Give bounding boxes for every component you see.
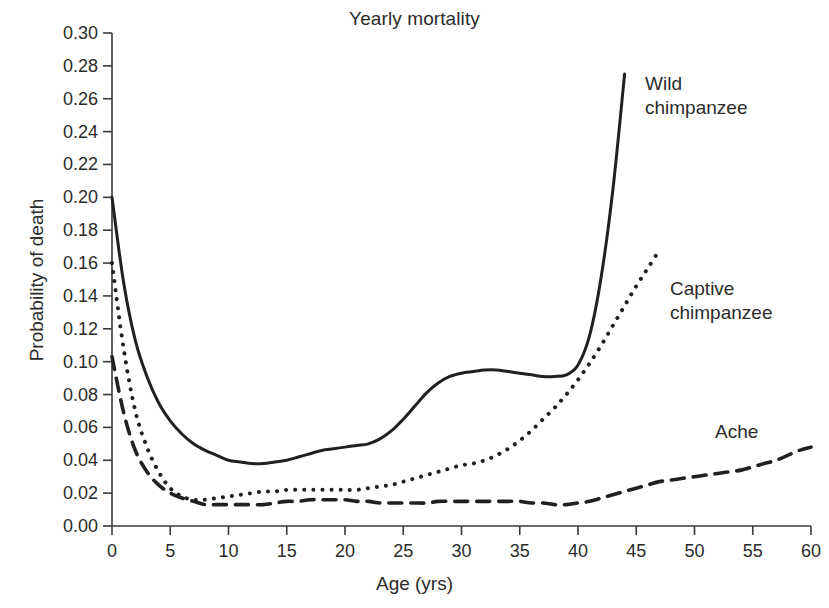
svg-text:45: 45 — [626, 541, 646, 561]
svg-text:0.24: 0.24 — [63, 122, 98, 142]
series-path-ache — [112, 357, 811, 505]
svg-text:0.08: 0.08 — [63, 385, 98, 405]
svg-text:35: 35 — [510, 541, 530, 561]
svg-text:0: 0 — [107, 541, 117, 561]
svg-text:0.00: 0.00 — [63, 516, 98, 536]
svg-text:20: 20 — [335, 541, 355, 561]
svg-text:60: 60 — [801, 541, 821, 561]
svg-text:0.06: 0.06 — [63, 417, 98, 437]
svg-text:0.16: 0.16 — [63, 253, 98, 273]
series-label-captive-chimpanzee: Captive chimpanzee — [670, 277, 772, 325]
svg-text:15: 15 — [277, 541, 297, 561]
series-path-captive-chimpanzee — [112, 250, 660, 500]
svg-text:0.04: 0.04 — [63, 450, 98, 470]
svg-text:0.26: 0.26 — [63, 89, 98, 109]
svg-text:5: 5 — [165, 541, 175, 561]
series-label-wild-chimpanzee: Wild chimpanzee — [645, 72, 747, 120]
svg-text:0.18: 0.18 — [63, 220, 98, 240]
series-path-wild-chimpanzee — [112, 74, 625, 464]
svg-text:0.12: 0.12 — [63, 319, 98, 339]
series-label-ache: Ache — [715, 420, 758, 444]
svg-text:10: 10 — [218, 541, 238, 561]
svg-text:0.20: 0.20 — [63, 187, 98, 207]
y-axis: 0.000.020.040.060.080.100.120.140.160.18… — [63, 23, 112, 536]
x-axis: 051015202530354045505560 — [107, 526, 821, 561]
svg-text:55: 55 — [743, 541, 763, 561]
svg-text:0.10: 0.10 — [63, 352, 98, 372]
svg-text:25: 25 — [393, 541, 413, 561]
svg-text:0.30: 0.30 — [63, 23, 98, 43]
svg-text:50: 50 — [684, 541, 704, 561]
svg-text:0.02: 0.02 — [63, 483, 98, 503]
chart-figure: Yearly mortality Probability of death Ag… — [0, 0, 829, 608]
svg-text:0.22: 0.22 — [63, 154, 98, 174]
svg-text:30: 30 — [451, 541, 471, 561]
svg-text:40: 40 — [568, 541, 588, 561]
svg-text:0.28: 0.28 — [63, 56, 98, 76]
svg-text:0.14: 0.14 — [63, 286, 98, 306]
